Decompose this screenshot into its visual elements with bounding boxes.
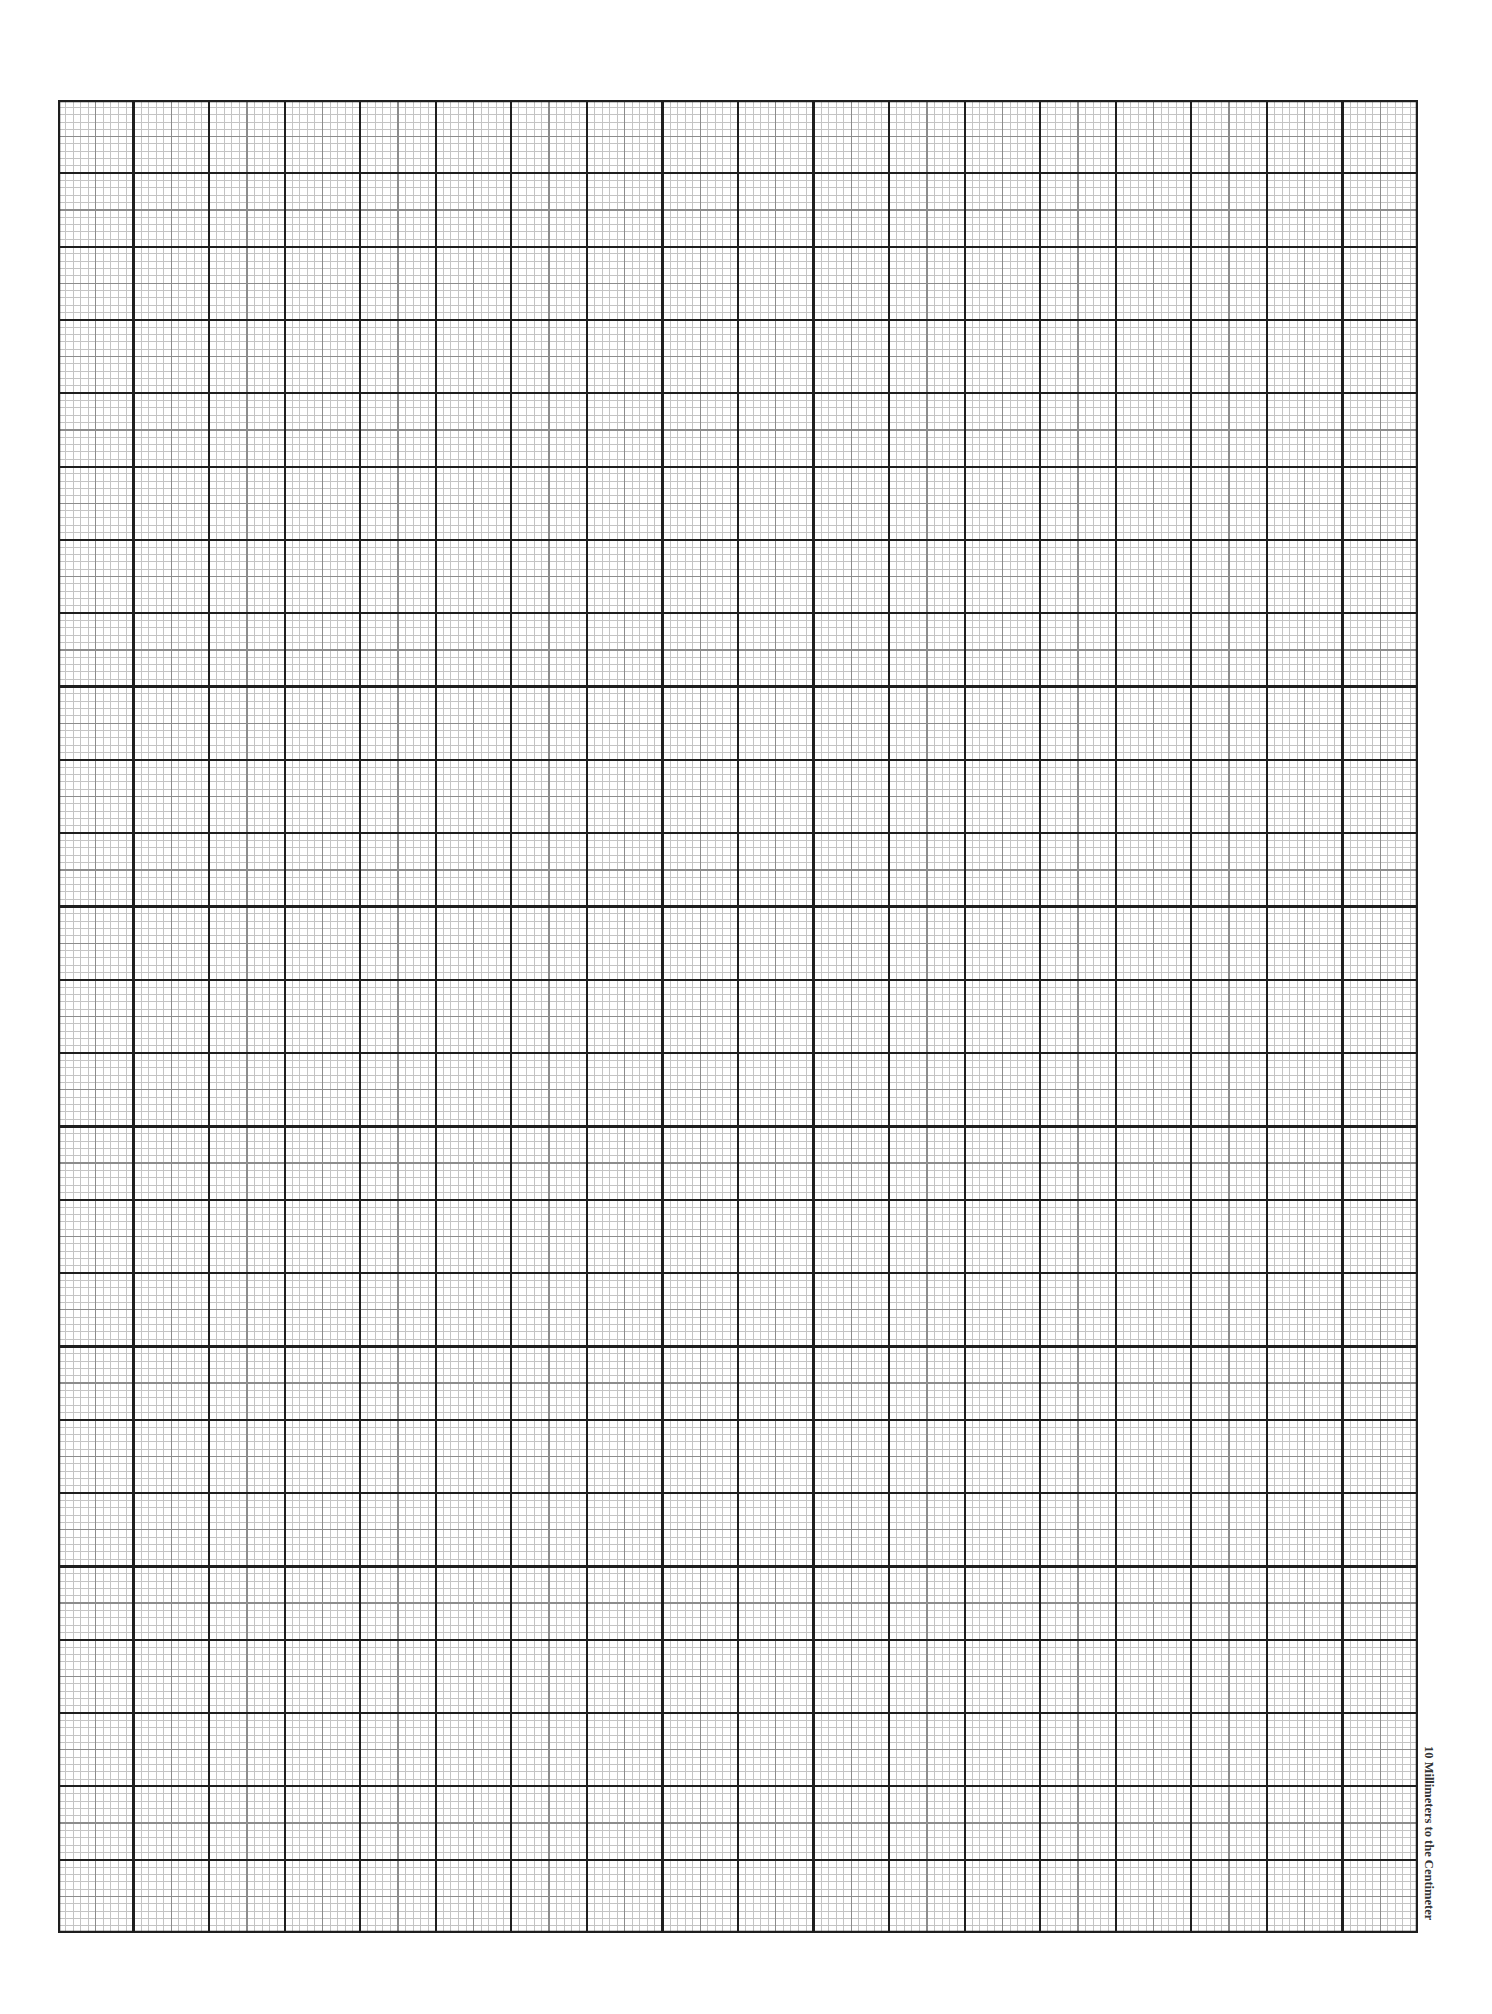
scale-label: 10 Millimeters to the Centimeter (1422, 1746, 1436, 1926)
graph-paper-page: 10 Millimeters to the Centimeter (0, 0, 1492, 2014)
grid-lines (58, 100, 1418, 1933)
millimeter-grid (58, 100, 1418, 1933)
